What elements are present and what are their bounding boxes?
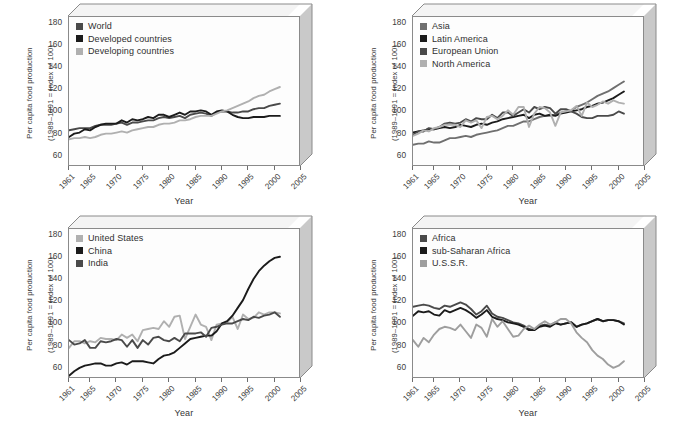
legend-swatch-icon [420, 35, 427, 42]
y-axis-title-line1: Per capita food production [25, 18, 36, 168]
x-tick-mark [565, 378, 566, 382]
legend-swatch-icon [420, 260, 427, 267]
legend-item[interactable]: China [76, 246, 143, 256]
legend-item[interactable]: European Union [420, 46, 498, 56]
x-axis-ticks: 1961196519701975198019851990199520002005 [68, 378, 313, 412]
x-tick-mark [459, 166, 460, 170]
x-tick-label: 1970 [105, 172, 124, 191]
x-tick-label: 2005 [633, 172, 652, 191]
legend-item[interactable]: India [76, 258, 143, 268]
y-tick-label: 160 [48, 39, 62, 49]
y-axis-title: Per capita food production (1989–1991 = … [14, 18, 40, 168]
x-tick-label: 1975 [475, 172, 494, 191]
x-tick-label: 1995 [237, 384, 256, 403]
x-tick-label: 1980 [158, 172, 177, 191]
y-tick-label: 140 [48, 273, 62, 283]
legend-item[interactable]: Developing countries [76, 46, 174, 56]
x-tick-label: 1995 [581, 384, 600, 403]
legend-label: North America [432, 59, 490, 69]
y-tick-label: 160 [392, 39, 406, 49]
x-tick-mark [247, 378, 248, 382]
legend-item[interactable]: Developed countries [76, 34, 174, 44]
y-tick-label: 60 [53, 362, 62, 372]
panel-world: Per capita food production (1989–1991 = … [0, 0, 344, 212]
legend-item[interactable]: U.S.S.R. [420, 258, 510, 268]
x-tick-mark [221, 166, 222, 170]
x-tick-label: 1985 [184, 172, 203, 191]
legend-label: World [88, 21, 112, 31]
legend-item[interactable]: Asia [420, 21, 498, 31]
panel-africa-ussr: Per capita food production (1989–1991 = … [344, 212, 688, 424]
x-tick-label: 2005 [289, 172, 308, 191]
plot-box: Africasub-Saharan AfricaU.S.S.R. [412, 228, 644, 378]
x-tick-mark [618, 378, 619, 382]
x-tick-label: 1961 [57, 384, 76, 403]
x-tick-label: 2005 [633, 384, 652, 403]
x-tick-label: 1980 [502, 384, 521, 403]
x-axis-ticks: 1961196519701975198019851990199520002005 [412, 378, 657, 412]
y-tick-label: 120 [48, 295, 62, 305]
x-tick-mark [512, 378, 513, 382]
legend-item[interactable]: United States [76, 233, 143, 243]
x-tick-mark [221, 378, 222, 382]
y-tick-label: 180 [392, 229, 406, 239]
x-tick-mark [168, 166, 169, 170]
x-tick-mark [512, 166, 513, 170]
x-tick-label: 1990 [210, 172, 229, 191]
x-axis-title: Year [68, 408, 300, 418]
x-tick-label: 1975 [131, 172, 150, 191]
legend-swatch-icon [420, 60, 427, 67]
y-tick-label: 80 [53, 340, 62, 350]
x-tick-mark [115, 378, 116, 382]
panel-regions: Per capita food production (1989–1991 = … [344, 0, 688, 212]
x-tick-label: 1961 [401, 172, 420, 191]
y-tick-label: 60 [397, 362, 406, 372]
legend-item[interactable]: Africa [420, 233, 510, 243]
x-tick-mark [247, 166, 248, 170]
legend-item[interactable]: sub-Saharan Africa [420, 246, 510, 256]
x-tick-label: 1961 [401, 384, 420, 403]
legend: United StatesChinaIndia [76, 233, 143, 268]
x-tick-label: 1990 [554, 384, 573, 403]
y-axis-title: Per capita food production (1989–1991 = … [358, 18, 384, 168]
x-tick-mark [433, 166, 434, 170]
plot-box: WorldDeveloped countriesDeveloping count… [68, 16, 300, 166]
legend-item[interactable]: Latin America [420, 34, 498, 44]
y-tick-label: 60 [53, 150, 62, 160]
legend: Africasub-Saharan AfricaU.S.S.R. [420, 233, 510, 268]
x-tick-label: 1990 [554, 172, 573, 191]
x-tick-mark [274, 166, 275, 170]
x-tick-mark [142, 378, 143, 382]
y-axis-title-line1: Per capita food production [25, 230, 36, 380]
legend-swatch-icon [76, 23, 83, 30]
legend-swatch-icon [76, 235, 83, 242]
y-tick-label: 100 [392, 317, 406, 327]
panel-countries: Per capita food production (1989–1991 = … [0, 212, 344, 424]
x-tick-label: 1970 [449, 384, 468, 403]
legend-item[interactable]: World [76, 21, 174, 31]
legend-item[interactable]: North America [420, 59, 498, 69]
x-tick-mark [433, 378, 434, 382]
y-tick-label: 80 [53, 128, 62, 138]
x-tick-label: 1965 [422, 172, 441, 191]
y-tick-label: 180 [48, 229, 62, 239]
x-tick-mark [89, 166, 90, 170]
plot-box: AsiaLatin AmericaEuropean UnionNorth Ame… [412, 16, 644, 166]
x-tick-mark [274, 378, 275, 382]
y-tick-label: 100 [392, 105, 406, 115]
x-axis-title: Year [68, 196, 300, 206]
legend-label: Africa [432, 233, 456, 243]
y-axis-ticks: 6080100120140160180 [382, 226, 408, 378]
y-axis-title-line1: Per capita food production [369, 230, 380, 380]
x-tick-mark [539, 166, 540, 170]
x-tick-mark [486, 166, 487, 170]
y-tick-label: 140 [392, 273, 406, 283]
x-tick-mark [89, 378, 90, 382]
chart-grid: Per capita food production (1989–1991 = … [0, 0, 688, 425]
y-tick-label: 80 [397, 340, 406, 350]
x-tick-mark [644, 378, 645, 382]
legend: AsiaLatin AmericaEuropean UnionNorth Ame… [420, 21, 498, 69]
x-tick-mark [68, 378, 69, 382]
x-axis-ticks: 1961196519701975198019851990199520002005 [412, 166, 657, 200]
legend-label: sub-Saharan Africa [432, 246, 510, 256]
